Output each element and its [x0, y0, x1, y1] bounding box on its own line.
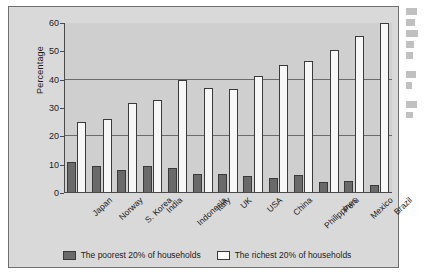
bar-richest: [254, 76, 263, 193]
bar-group: [241, 23, 266, 193]
bar-poorest: [218, 174, 227, 193]
bar-richest: [304, 61, 313, 193]
bar-poorest: [143, 166, 152, 193]
legend-item: The richest 20% of households: [217, 250, 352, 260]
bar-richest: [279, 65, 288, 193]
bar-group: [165, 23, 190, 193]
bar-group: [342, 23, 367, 193]
y-tick-label: 30: [49, 103, 59, 113]
bar-group: [114, 23, 139, 193]
bar-richest: [355, 36, 364, 193]
bar-poorest: [193, 174, 202, 193]
bar-poorest: [269, 178, 278, 193]
bar-richest: [204, 88, 213, 193]
bar-richest: [178, 80, 187, 193]
x-axis-label: Brazil: [392, 195, 414, 217]
y-tick-label: 20: [49, 131, 59, 141]
y-tick-label: 10: [49, 160, 59, 170]
bar-poorest: [243, 176, 252, 193]
bar-group: [316, 23, 341, 193]
bar-richest: [128, 103, 137, 193]
plot-area: 0102030405060: [64, 23, 392, 193]
bar-group: [367, 23, 392, 193]
y-axis-title: Percentage: [35, 15, 45, 125]
legend-item: The poorest 20% of households: [63, 250, 201, 260]
y-tick-label: 50: [49, 46, 59, 56]
scanned-page: Percentage 0102030405060 JapanNorwayS. K…: [0, 0, 433, 278]
bar-poorest: [294, 175, 303, 193]
y-tick-label: 60: [49, 18, 59, 28]
bar-group: [190, 23, 215, 193]
bar-group: [266, 23, 291, 193]
bar-group: [64, 23, 89, 193]
x-axis-line: [64, 192, 392, 193]
y-axis-line: [64, 23, 65, 193]
bar-poorest: [67, 162, 76, 193]
x-axis-label: Japan: [90, 195, 114, 218]
bar-poorest: [117, 170, 126, 193]
bar-richest: [380, 23, 389, 193]
legend-label: The poorest 20% of households: [81, 250, 201, 260]
x-axis-label: USA: [265, 195, 285, 214]
x-axis-label: Norway: [117, 195, 145, 222]
y-tick-label: 0: [54, 188, 59, 198]
bar-group: [215, 23, 240, 193]
y-tick-mark: [60, 193, 64, 194]
figure-container: Percentage 0102030405060 JapanNorwayS. K…: [8, 6, 399, 268]
legend-swatch-poor: [63, 251, 76, 260]
bar-poorest: [168, 168, 177, 194]
x-axis-label: China: [291, 195, 314, 217]
legend-swatch-rich: [217, 251, 230, 260]
bars-layer: [64, 23, 392, 193]
bar-poorest: [92, 166, 101, 193]
x-axis-label: UK: [238, 195, 253, 210]
bar-richest: [103, 119, 112, 193]
bar-group: [291, 23, 316, 193]
adjacent-column-text: [406, 8, 432, 118]
bar-richest: [77, 122, 86, 193]
x-axis-label: Mexico: [368, 195, 395, 221]
x-axis-category-labels: JapanNorwayS. KoreaIndiaIndonesiaItalyUK…: [64, 195, 392, 241]
y-tick-label: 40: [49, 75, 59, 85]
bar-richest: [153, 100, 162, 193]
legend-label: The richest 20% of households: [235, 250, 352, 260]
bar-group: [89, 23, 114, 193]
chart-legend: The poorest 20% of householdsThe richest…: [27, 247, 387, 263]
bar-richest: [330, 50, 339, 193]
bar-richest: [229, 89, 238, 193]
bar-group: [140, 23, 165, 193]
